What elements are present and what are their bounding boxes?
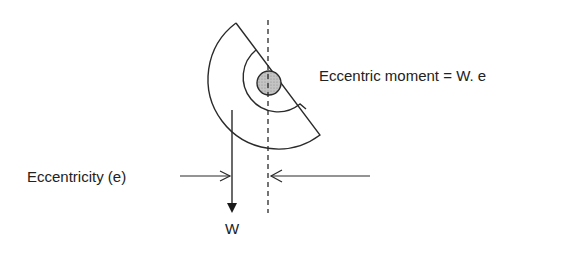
shaft-circle — [257, 71, 281, 95]
eccentricity-label: Eccentricity (e) — [27, 169, 126, 184]
eccentric-mass-diagram — [0, 0, 581, 255]
eccentric-moment-label: Eccentric moment = W. e — [319, 68, 486, 83]
weight-arrowhead-icon — [227, 203, 237, 213]
weight-label: W — [225, 221, 239, 236]
